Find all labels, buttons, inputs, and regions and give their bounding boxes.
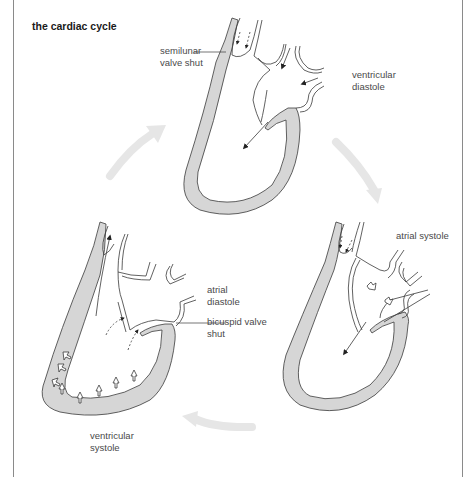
cycle-arrow-top-left (110, 134, 152, 176)
label-line: diastole (207, 296, 240, 308)
label-line: bicuspid valve (207, 316, 267, 328)
label-line: ventricular (90, 430, 134, 442)
label-atrial-diastole: atrial diastole (207, 284, 240, 308)
label-line: atrial systole (396, 230, 449, 242)
label-line: ventricular (352, 69, 396, 81)
heart-bottom-right (283, 222, 430, 411)
label-semilunar-valve-shut: semilunar valve shut (160, 45, 203, 69)
heart-top (184, 18, 324, 214)
label-bicuspid-valve-shut: bicuspid valve shut (207, 316, 267, 340)
heart-bottom-left (42, 222, 196, 415)
label-line: atrial (207, 284, 240, 296)
cycle-arrow-bottom (195, 419, 252, 427)
label-line: systole (90, 442, 134, 454)
cycle-arrow-right (336, 142, 374, 190)
label-line: valve shut (160, 57, 203, 69)
label-ventricular-diastole: ventricular diastole (352, 69, 396, 93)
label-line: shut (207, 328, 267, 340)
label-line: semilunar (160, 45, 203, 57)
label-atrial-systole: atrial systole (396, 230, 449, 242)
label-ventricular-systole: ventricular systole (90, 430, 134, 454)
label-line: diastole (352, 81, 396, 93)
